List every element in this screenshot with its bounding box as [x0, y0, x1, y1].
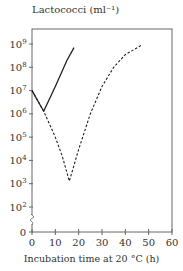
- x-tick-label: 10: [49, 237, 62, 248]
- y-tick-label: 104: [9, 154, 27, 166]
- y-tick-label: 0: [20, 227, 26, 238]
- x-tick-label: 0: [29, 237, 35, 248]
- y-tick-label: 107: [9, 84, 26, 96]
- series-line-dashed: [32, 45, 142, 181]
- plot-area: 01021031041051061071081090102030405060: [0, 0, 183, 271]
- x-tick-label: 20: [72, 237, 85, 248]
- x-tick-label: 30: [96, 237, 109, 248]
- series-line-solid: [32, 48, 74, 112]
- y-tick-label: 103: [9, 177, 26, 189]
- chart-figure: Lactococci (ml⁻¹) 0102103104105106107108…: [0, 0, 183, 271]
- y-axis-title: Lactococci (ml⁻¹): [32, 4, 119, 15]
- plot-frame: [32, 29, 172, 232]
- x-tick-label: 60: [166, 237, 179, 248]
- y-tick-label: 102: [9, 201, 26, 213]
- x-axis-title: Incubation time at 20 °C (h): [0, 253, 183, 264]
- y-tick-label: 106: [9, 107, 27, 119]
- x-tick-label: 40: [119, 237, 132, 248]
- y-tick-label: 108: [9, 61, 26, 73]
- y-tick-label: 105: [9, 131, 26, 143]
- y-tick-label: 109: [9, 38, 26, 50]
- x-tick-label: 50: [142, 237, 155, 248]
